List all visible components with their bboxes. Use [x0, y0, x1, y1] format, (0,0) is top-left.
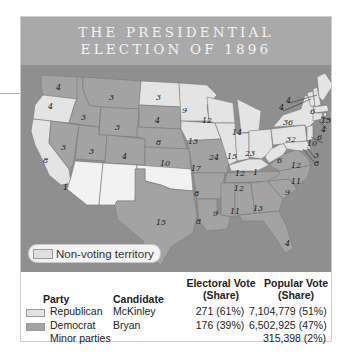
ev-south-dakota: 4: [154, 116, 160, 125]
election-map-panel: THE PRESIDENTIAL ELECTION OF 1896: [20, 16, 332, 342]
ev-maine: 6: [310, 107, 315, 116]
ev-utah: 3: [89, 147, 94, 156]
ev-minnesota: 9: [182, 106, 187, 115]
territory-new-mexico: [99, 163, 137, 205]
ev-oregon: 4: [47, 102, 53, 111]
us-map-svg: 4 4 8 1 3 3 3 3 3 4 3 4 8 10 15 9 13 17 …: [21, 65, 331, 272]
ev-west-virginia: 6: [277, 156, 282, 165]
ev-new-hampshire: 4: [285, 96, 291, 105]
ev-virginia: 12: [291, 161, 301, 170]
ev-ohio: 23: [244, 149, 255, 158]
row-candidate-mckinley: McKinley: [113, 304, 156, 318]
ev-iowa: 13: [188, 137, 198, 146]
ev-washington: 4: [55, 83, 61, 92]
ev-massachusetts: 15: [321, 116, 331, 125]
ev-georgia: 13: [253, 204, 263, 213]
ev-texas: 15: [156, 218, 166, 227]
ev-kentucky: 12: [235, 169, 245, 178]
header-popular-line1: Popular Vote: [256, 277, 336, 289]
ev-indiana: 15: [227, 152, 237, 161]
results-table: Party Candidate Electoral Vote (Share) P…: [21, 273, 331, 341]
democrat-swatch: [26, 323, 45, 331]
ev-north-carolina: 11: [291, 177, 301, 186]
state-wyoming: [99, 107, 139, 137]
row-popular-democrat: 6,502,925 (47%): [249, 318, 326, 332]
ev-louisiana: 8: [196, 217, 201, 226]
header-popular-vote: Popular Vote (Share): [256, 277, 336, 301]
ev-new-jersey: 10: [307, 139, 317, 148]
ev-nevada: 3: [61, 143, 66, 152]
row-electoral-democrat: 176 (39%): [184, 318, 256, 332]
ev-colorado: 4: [121, 152, 127, 161]
ev-montana: 3: [109, 93, 114, 102]
ev-vermont: 4: [278, 103, 284, 112]
non-voting-swatch: [33, 249, 53, 259]
header-electoral-line2: (Share): [181, 289, 261, 301]
ev-nebraska: 8: [156, 138, 161, 147]
map-title: THE PRESIDENTIAL ELECTION OF 1896: [21, 17, 331, 65]
header-electoral-line1: Electoral Vote: [181, 277, 261, 289]
ev-kentucky-split: 1: [253, 168, 258, 177]
ev-mississippi: 9: [213, 209, 218, 218]
header-popular-line2: (Share): [256, 289, 336, 301]
row-popular-minor: 315,398 (2%): [249, 331, 326, 345]
row-candidate-bryan: Bryan: [113, 318, 140, 332]
ev-idaho: 3: [81, 113, 86, 122]
ev-arkansas: 8: [194, 189, 199, 198]
state-maine: [317, 73, 331, 101]
ev-tennessee: 12: [234, 184, 244, 193]
ev-missouri: 17: [191, 164, 202, 173]
ev-south-carolina: 9: [285, 188, 290, 197]
ev-california-split: 1: [63, 183, 68, 192]
non-voting-legend: Non-voting territory: [28, 244, 161, 263]
row-popular-republican: 7,104,779 (51%): [249, 304, 326, 318]
header-electoral-vote: Electoral Vote (Share): [181, 277, 261, 301]
title-line-2: ELECTION OF 1896: [21, 41, 331, 58]
us-map: 4 4 8 1 3 3 3 3 3 4 3 4 8 10 15 9 13 17 …: [21, 65, 331, 272]
non-voting-label: Non-voting territory: [56, 248, 154, 260]
ev-maryland: 8: [314, 159, 319, 168]
republican-swatch: [26, 309, 45, 317]
ev-wisconsin: 12: [202, 116, 212, 125]
leader-line: [0, 93, 22, 94]
row-party-republican: Republican: [50, 304, 103, 318]
ev-alabama: 11: [230, 207, 240, 216]
state-iowa: [181, 121, 221, 141]
ev-connecticut: 6: [317, 133, 322, 142]
ev-florida: 4: [284, 239, 290, 248]
ev-pennsylvania: 32: [286, 135, 296, 144]
ev-illinois: 24: [208, 153, 219, 162]
ev-california: 8: [43, 156, 48, 165]
ev-kansas: 10: [160, 159, 170, 168]
row-party-democrat: Democrat: [50, 318, 96, 332]
title-line-1: THE PRESIDENTIAL: [21, 24, 331, 41]
row-electoral-republican: 271 (61%): [184, 304, 256, 318]
row-party-minor: Minor parties: [50, 331, 111, 345]
ev-michigan: 14: [232, 128, 242, 137]
ev-new-york: 36: [283, 118, 293, 127]
ev-wyoming: 3: [115, 123, 120, 132]
ev-north-dakota: 3: [156, 93, 161, 102]
territory-arizona: [67, 161, 103, 205]
